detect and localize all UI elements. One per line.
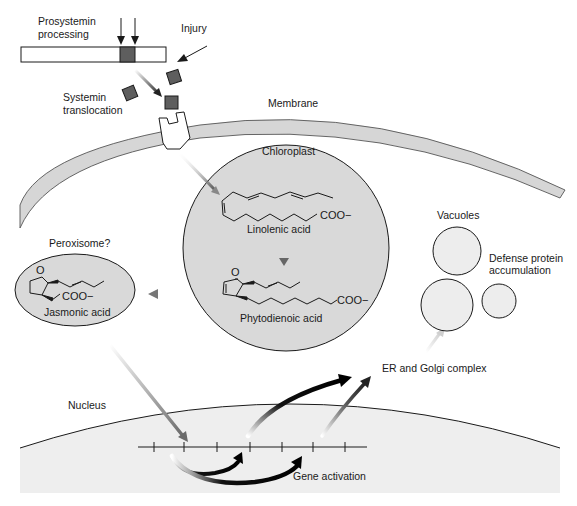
systemin-translocation-arrow [135,70,162,97]
linolenic-carboxylate: COO− [320,209,351,221]
nucleus [20,404,560,493]
defense-protein-label-line1: Defense protein [489,252,563,264]
prosystemin-bar [21,47,166,62]
defense-protein-label-line2: accumulation [489,264,551,276]
injury-arrow [177,46,207,62]
prosystemin-label-line2: processing [38,28,89,40]
phytodienoic-acid-label: Phytodienoic acid [240,312,322,324]
jasmonic-carboxylate: COO− [62,290,93,302]
opda-ketone-o: O [231,266,240,278]
receptor-to-chloroplast-arrow [178,152,220,195]
prosystemin-label-line1: Prosystemin [38,15,96,27]
linolenic-acid-label: Linolenic acid [247,223,311,235]
systemin-receptor [159,112,190,149]
jasmonic-acid-label: Jasmonic acid [44,306,111,318]
jasmonate-signaling-diagram: Nucleus Gene activation ER and Golgi com… [0,0,577,506]
vacuoles [421,227,516,331]
chloroplast-label: Chloroplast [262,145,315,157]
systemin-peptides [122,69,181,109]
ja-ketone-o: O [36,264,45,276]
systemin-label-line2: translocation [63,104,123,116]
nucleus-label: Nucleus [68,399,106,411]
phytodienoic-carboxylate: COO− [337,294,368,306]
cleavage-arrows [117,18,139,45]
membrane-label: Membrane [268,97,318,109]
injury-label: Injury [181,22,207,34]
peroxisome-label: Peroxisome? [49,237,110,249]
vacuoles-label: Vacuoles [437,209,479,221]
systemin-label-line1: Systemin [63,91,106,103]
gene-activation-label: Gene activation [293,470,366,482]
er-golgi-label: ER and Golgi complex [382,362,487,374]
